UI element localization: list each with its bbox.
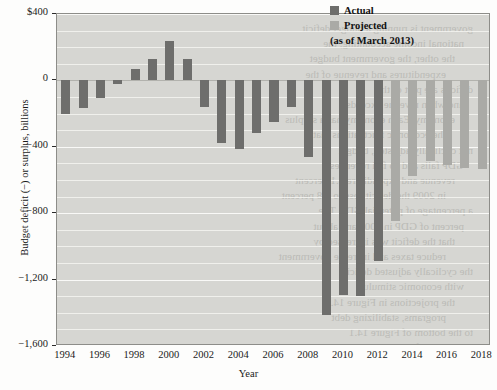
bar-1996 (96, 80, 105, 98)
bar-2005 (252, 80, 261, 133)
y-axis-tick-mark (52, 279, 56, 280)
legend-label-actual: Actual (344, 5, 374, 16)
bar-1995 (79, 80, 88, 107)
bar-2001 (183, 59, 192, 80)
bar-2002 (200, 80, 209, 106)
y-axis-tick-label: $400 (0, 6, 48, 17)
y-axis-tick-mark (52, 212, 56, 213)
bar-2006 (269, 80, 278, 121)
bar-2017 (460, 80, 469, 168)
legend-swatch-actual-icon (330, 6, 339, 15)
bar-2004 (235, 80, 244, 149)
y-axis-title: Budget deficit (−) or surplus, billions (19, 58, 30, 298)
x-axis-tick-label: 2018 (461, 349, 497, 360)
bar-2013 (391, 80, 400, 220)
bar-2003 (217, 80, 226, 143)
legend-label-projected-note: (as of March 2013) (330, 35, 414, 46)
bar-2015 (426, 80, 435, 161)
bar-2010 (339, 80, 348, 295)
bar-2009 (322, 80, 331, 315)
bar-2014 (408, 80, 417, 176)
bar-series-container (57, 14, 489, 344)
bar-1999 (148, 59, 157, 80)
legend-item-projected: Projected (330, 19, 414, 32)
bar-1994 (61, 80, 70, 114)
legend-item-actual: Actual (330, 4, 414, 17)
bar-2012 (374, 80, 383, 260)
y-axis-tick-mark (52, 13, 56, 14)
y-axis-tick-mark (52, 146, 56, 147)
bar-2007 (287, 80, 296, 107)
y-axis-tick-label: −1,600 (0, 338, 48, 349)
bar-1997 (113, 80, 122, 84)
bar-2018 (478, 80, 487, 169)
x-axis-title: Year (0, 368, 497, 379)
bar-2016 (443, 80, 452, 164)
bar-2011 (356, 80, 365, 295)
bar-2008 (304, 80, 313, 156)
y-axis-tick-mark (52, 345, 56, 346)
legend-label-projected: Projected (344, 20, 387, 31)
chart-figure: government is running a budget deficitna… (0, 0, 497, 390)
legend-swatch-projected-icon (330, 21, 339, 30)
y-axis-tick-mark (52, 79, 56, 80)
bar-1998 (131, 69, 140, 80)
legend-item-projected-note: (as of March 2013) (330, 34, 414, 47)
bar-2000 (165, 41, 174, 80)
plot-area: government is running a budget deficitna… (56, 13, 490, 345)
chart-legend: Actual Projected (as of March 2013) (330, 4, 414, 49)
